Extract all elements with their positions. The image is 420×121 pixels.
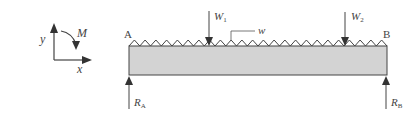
y-axis-label: y (39, 32, 46, 46)
reaction-rb: RB (382, 76, 403, 110)
reaction-ra: RA (125, 76, 146, 110)
point-load-w1: W1 (205, 10, 227, 46)
w1-label: W1 (214, 10, 227, 24)
beam-diagram: y x M A B W1 w W2 RA RB (0, 0, 420, 121)
rb-label: RB (390, 96, 403, 110)
coordinate-system: y x M (39, 23, 92, 76)
distributed-load-label: w (258, 24, 266, 36)
moment-label: M (76, 26, 88, 40)
rb-arrow-icon (382, 76, 390, 85)
moment-arrow-icon (72, 41, 80, 50)
distributed-load-zigzag (129, 40, 387, 46)
w2-label: W2 (351, 10, 364, 24)
ra-arrow-icon (125, 76, 133, 85)
ra-label: RA (133, 96, 146, 110)
x-axis-arrow-icon (82, 56, 92, 64)
beam (129, 46, 387, 75)
end-label-b: B (383, 28, 390, 40)
y-axis-arrow-icon (50, 23, 58, 33)
x-axis-label: x (76, 62, 83, 76)
w1-arrow-icon (205, 37, 213, 46)
distributed-load-leader: w (231, 24, 266, 41)
end-label-a: A (124, 28, 132, 40)
